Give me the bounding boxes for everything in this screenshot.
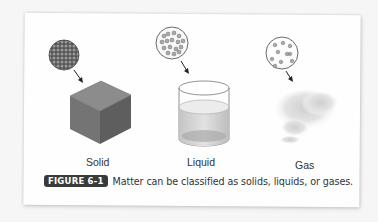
solid-particle-view-icon xyxy=(49,40,79,70)
solid-cube-icon xyxy=(70,81,131,144)
liquid-particle-view-icon xyxy=(156,27,188,59)
gas-particle-view-icon xyxy=(266,37,298,69)
figure-caption: FIGURE 6-1 Matter can be classified as s… xyxy=(44,175,353,187)
liquid-container-icon xyxy=(179,81,229,146)
matter-states-illustration xyxy=(0,0,378,222)
arrow-icon xyxy=(74,70,83,83)
arrow-icon xyxy=(181,61,189,74)
solid-label: Solid xyxy=(86,156,109,168)
liquid-label: Liquid xyxy=(187,156,215,168)
gas-cloud-icon xyxy=(275,90,338,144)
arrow-icon xyxy=(286,71,293,82)
figure-number-badge: FIGURE 6-1 xyxy=(44,175,108,187)
gas-label: Gas xyxy=(295,159,314,171)
caption-text: Matter can be classified as solids, liqu… xyxy=(113,176,354,187)
